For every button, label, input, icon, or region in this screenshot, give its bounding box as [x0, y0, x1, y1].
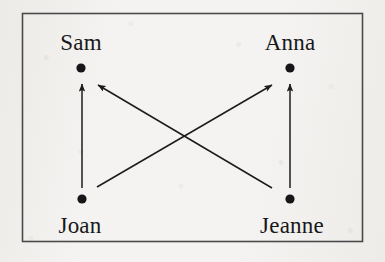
node-label-joan: Joan: [59, 214, 102, 237]
node-label-jeanne: Jeanne: [260, 214, 324, 237]
node-label-anna: Anna: [265, 31, 316, 54]
node-dot-joan: [77, 194, 86, 203]
figure-root: Sam Anna Joan Jeanne: [0, 0, 385, 262]
node-dot-anna: [285, 63, 294, 72]
node-dot-sam: [76, 63, 85, 72]
node-label-sam: Sam: [60, 31, 102, 54]
node-dot-jeanne: [285, 194, 294, 203]
edge-layer: [82, 84, 290, 188]
